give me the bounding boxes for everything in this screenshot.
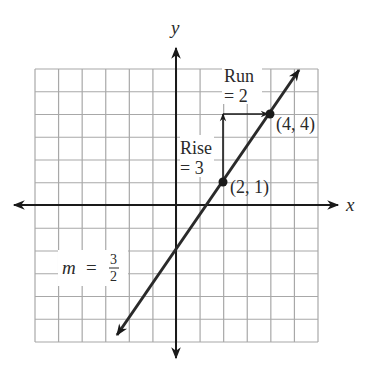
point-label-2-1: (2, 1) (230, 177, 269, 198)
slope-denominator: 2 (110, 269, 117, 284)
slope-label-m: m (62, 257, 76, 278)
slope-label-eq: = (86, 257, 97, 278)
point-label-4-4: (4, 4) (276, 114, 315, 135)
run-label-line2: = 2 (224, 86, 248, 106)
y-axis-label: y (169, 17, 180, 38)
slope-numerator: 3 (110, 252, 117, 267)
run-label-line1: Run (224, 66, 254, 86)
rise-label-line1: Rise (180, 138, 212, 158)
slope-diagram: x y (2, 1) (4, 4) Rise = 3 Run = 2 m = 3… (0, 0, 372, 372)
point-2-1 (219, 178, 228, 187)
point-4-4 (266, 110, 275, 119)
rise-label-line2: = 3 (180, 158, 204, 178)
slope-line (117, 70, 299, 335)
x-axis-label: x (345, 194, 355, 215)
